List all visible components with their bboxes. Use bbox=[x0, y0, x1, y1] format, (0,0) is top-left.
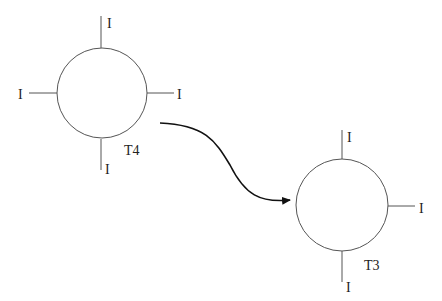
node-t3-circle bbox=[296, 159, 388, 251]
terminal-label-right: I bbox=[177, 87, 182, 102]
node-t4-label: T4 bbox=[124, 143, 140, 158]
terminal-label-top: I bbox=[107, 16, 112, 31]
terminal-label-left: I bbox=[18, 87, 23, 102]
diagram-canvas: I I I I T4 I I I T3 bbox=[0, 0, 442, 301]
terminal-label-right: I bbox=[419, 201, 424, 216]
node-t4: I I I I T4 bbox=[18, 16, 182, 177]
terminal-label-bottom: I bbox=[105, 162, 110, 177]
terminal-label-bottom: I bbox=[346, 280, 351, 295]
node-t4-circle bbox=[57, 48, 147, 138]
transition-arrow bbox=[160, 123, 290, 201]
node-t3: I I I T3 bbox=[296, 130, 424, 295]
terminal-label-top: I bbox=[347, 130, 352, 145]
node-t3-label: T3 bbox=[364, 258, 380, 273]
